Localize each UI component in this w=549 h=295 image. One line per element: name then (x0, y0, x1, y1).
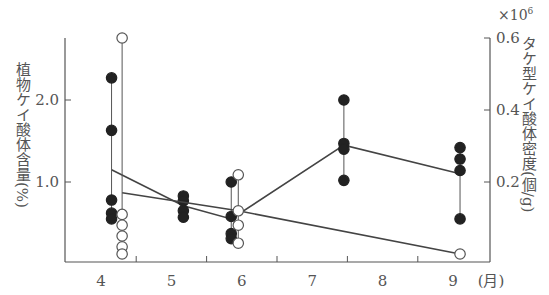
filled-data-point (455, 142, 465, 152)
filled-data-point (106, 214, 116, 224)
filled-data-point (339, 175, 349, 185)
y-left-tick-label: 2.0 (35, 91, 59, 109)
x-tick-label: 7 (307, 272, 317, 290)
filled-data-point (455, 214, 465, 224)
filled-data-point (455, 165, 465, 175)
open-data-point (233, 206, 243, 216)
y-right-tick-label: 0.6 (496, 29, 520, 47)
x-tick-label: 9 (448, 272, 458, 290)
x-tick-label: 5 (167, 272, 177, 290)
y-right-tick-label: 0.2 (496, 173, 520, 191)
filled-data-point (339, 144, 349, 154)
mean-line-density (122, 193, 460, 254)
filled-data-point (106, 73, 116, 83)
chart-canvas: 456789(月)1.02.00.20.40.6 (0, 0, 549, 295)
open-data-point (233, 238, 243, 248)
open-data-point (117, 231, 127, 241)
filled-data-point (339, 95, 349, 105)
x-tick-label: 8 (378, 272, 388, 290)
filled-data-point (106, 125, 116, 135)
open-data-point (117, 209, 127, 219)
filled-data-point (178, 196, 188, 206)
mean-line-content (112, 145, 460, 219)
filled-data-point (455, 154, 465, 164)
filled-data-point (178, 212, 188, 222)
open-data-point (117, 249, 127, 259)
open-data-point (117, 220, 127, 230)
filled-data-point (106, 195, 116, 205)
y-left-tick-label: 1.0 (35, 173, 59, 191)
x-axis-unit: (月) (478, 272, 505, 290)
open-data-point (233, 220, 243, 230)
open-data-point (233, 170, 243, 180)
y-axis-right-label: タケ型ケイ酸体密度(個/g) (520, 36, 535, 212)
x-tick-label: 6 (237, 272, 247, 290)
open-data-point (117, 33, 127, 43)
x-tick-label: 4 (96, 272, 106, 290)
right-axis-multiplier: ×106 (498, 6, 533, 23)
y-right-tick-label: 0.4 (496, 101, 520, 119)
open-data-point (455, 249, 465, 259)
y-axis-left-label: 植物ケイ酸体含量(%) (14, 62, 29, 208)
